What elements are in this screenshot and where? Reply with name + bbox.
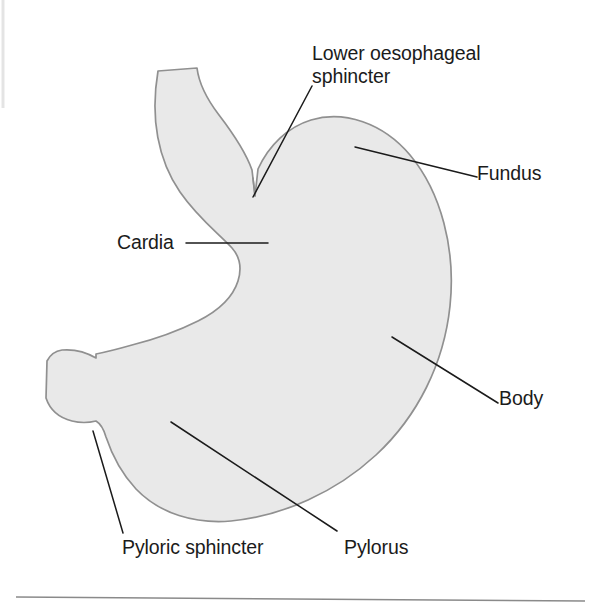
footer-rule	[16, 597, 585, 601]
label-fundus: Fundus	[477, 162, 541, 185]
label-pylorus: Pylorus	[344, 536, 408, 559]
stomach-outline-path	[46, 68, 451, 522]
label-body: Body	[499, 387, 543, 410]
label-pyloric-sphincter: Pyloric sphincter	[122, 536, 263, 559]
stomach-anatomy-figure: Lower oesophageal sphincter Fundus Cardi…	[0, 0, 593, 614]
stomach-organ-shape	[46, 68, 451, 522]
label-cardia: Cardia	[117, 231, 174, 254]
stomach-diagram	[0, 0, 593, 614]
label-lower-oesophageal-sphincter: Lower oesophageal sphincter	[312, 42, 481, 88]
